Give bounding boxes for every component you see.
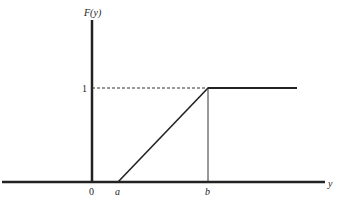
tick-origin: 0 — [89, 186, 94, 197]
cdf-ramp — [118, 88, 208, 182]
tick-one: 1 — [82, 83, 87, 94]
x-axis-label: y — [327, 178, 333, 189]
tick-b: b — [205, 186, 210, 197]
y-axis-label: F(y) — [83, 7, 102, 19]
tick-a: a — [115, 186, 120, 197]
cdf-chart: F(y) y 1 0 a b — [0, 0, 337, 198]
